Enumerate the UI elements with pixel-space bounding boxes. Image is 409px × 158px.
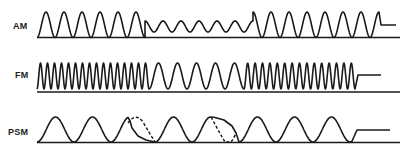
psm-waveform: [37, 117, 390, 142]
am-waveform: [37, 12, 396, 38]
fm-waveform: [37, 63, 381, 89]
waveform-diagram: [0, 0, 409, 158]
